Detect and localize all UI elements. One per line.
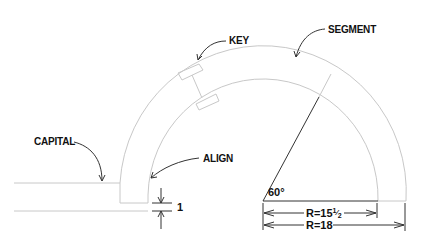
key-block-inner bbox=[196, 94, 219, 110]
capital-label: CAPITAL bbox=[34, 136, 75, 147]
angle-label: 60° bbox=[268, 186, 285, 198]
gap-dimension bbox=[152, 188, 172, 229]
inner-arc bbox=[148, 79, 378, 203]
arch-diagram: KEY SEGMENT CAPITAL ALIGN 1 60° R=151⁄2 … bbox=[0, 0, 422, 249]
key-label: KEY bbox=[229, 35, 249, 46]
gap-value: 1 bbox=[177, 201, 183, 213]
outer-arc bbox=[120, 46, 406, 201]
align-label: ALIGN bbox=[203, 153, 233, 164]
segment-joint bbox=[319, 74, 331, 97]
outer-radius-label: R=18 bbox=[306, 219, 333, 231]
align-leader bbox=[151, 158, 199, 178]
capital-leader bbox=[74, 142, 102, 181]
key-leader bbox=[198, 41, 226, 60]
inner-radius-label: R=151⁄2 bbox=[306, 207, 342, 219]
key-joint bbox=[178, 64, 219, 110]
segment-leader bbox=[296, 29, 325, 57]
segment-label: SEGMENT bbox=[328, 24, 376, 35]
